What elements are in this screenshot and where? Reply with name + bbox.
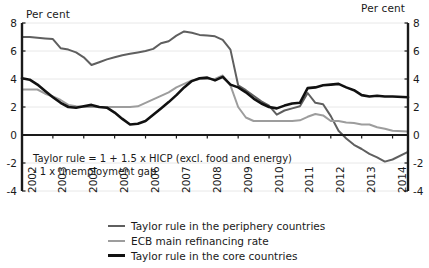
y-tick-label-left: 6 [1, 46, 17, 57]
y-tick-label-right: 2 [413, 102, 429, 113]
legend-item: ECB main refinancing rate [108, 233, 325, 248]
chart-figure: Per cent Per cent 86420-2-4 86420-2-4 20… [0, 0, 429, 268]
x-tick-label: 2013 [366, 166, 377, 193]
series-line-2 [22, 77, 408, 125]
left-axis-title: Per cent [26, 8, 70, 20]
legend-label: Taylor rule in the periphery countries [131, 220, 325, 232]
legend-line-swatch [108, 225, 125, 227]
legend-item: Taylor rule in the core countries [108, 248, 325, 263]
y-tick-label-right: 0 [413, 130, 429, 141]
y-tick-label-left: -2 [1, 158, 17, 169]
y-tick-label-right: -4 [413, 186, 429, 197]
y-tick-label-left: -4 [1, 186, 17, 197]
taylor-rule-formula-annotation: Taylor rule = 1 + 1.5 x HICP (excl. food… [33, 152, 292, 178]
legend-line-swatch [108, 254, 125, 257]
right-axis-title: Per cent [361, 2, 405, 14]
y-tick-label-left: 4 [1, 74, 17, 85]
y-tick-label-left: 8 [1, 18, 17, 29]
series-line-1 [22, 76, 408, 132]
legend-label: Taylor rule in the core countries [131, 250, 297, 262]
y-tick-label-right: 6 [413, 46, 429, 57]
legend-item: Taylor rule in the periphery countries [108, 218, 325, 233]
y-tick-label-right: -2 [413, 158, 429, 169]
legend-label: ECB main refinancing rate [131, 235, 269, 247]
y-tick-label-left: 2 [1, 102, 17, 113]
y-tick-label-left: 0 [1, 130, 17, 141]
legend-line-swatch [108, 240, 125, 242]
y-tick-label-right: 8 [413, 18, 429, 29]
x-tick-label: 2014 [397, 166, 408, 193]
x-tick-label: 2012 [335, 166, 346, 193]
y-tick-label-right: 4 [413, 74, 429, 85]
chart-legend: Taylor rule in the periphery countriesEC… [108, 218, 325, 263]
x-tick-label: 2011 [304, 166, 315, 193]
